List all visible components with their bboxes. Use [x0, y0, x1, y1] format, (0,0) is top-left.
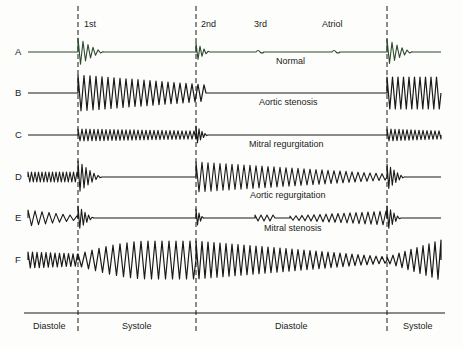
- trace-a-normal: [28, 38, 441, 64]
- caption-aortic-stenosis: Aortic stenosis: [259, 97, 318, 107]
- marker-label-3rd: 3rd: [254, 19, 267, 29]
- caption-aortic-regurgitation: Aortic regurgitation: [250, 190, 326, 200]
- trace-c-mitral-regurgitation: [28, 126, 441, 143]
- trace-canvas: [0, 0, 463, 348]
- caption-normal: Normal: [276, 56, 305, 66]
- row-label-c: C: [15, 129, 22, 140]
- row-label-e: E: [15, 212, 21, 223]
- trace-f: [28, 240, 441, 279]
- marker-label-2nd: 2nd: [201, 19, 216, 29]
- caption-mitral-stenosis: Mitral stenosis: [264, 223, 322, 233]
- row-label-d: D: [15, 171, 22, 182]
- phonocardiogram-figure: 1st 2nd 3rd Atriol A B C D E F Normal Ao…: [0, 0, 463, 348]
- row-label-b: B: [15, 87, 21, 98]
- marker-label-1st: 1st: [84, 19, 96, 29]
- trace-e-mitral-stenosis: [28, 206, 441, 228]
- caption-mitral-regurgitation: Mitral regurgitation: [249, 139, 324, 149]
- phase-label-diastole-1: Diastole: [33, 321, 66, 331]
- marker-label-atrial: Atriol: [322, 19, 343, 29]
- phase-label-systole-1: Systole: [122, 321, 152, 331]
- row-label-a: A: [15, 46, 21, 57]
- phase-label-systole-2: Systole: [403, 321, 433, 331]
- phase-label-diastole-2: Diastole: [275, 321, 308, 331]
- trace-b-aortic-stenosis: [28, 75, 441, 111]
- row-label-f: F: [15, 254, 21, 265]
- trace-d-aortic-regurgitation: [28, 161, 441, 192]
